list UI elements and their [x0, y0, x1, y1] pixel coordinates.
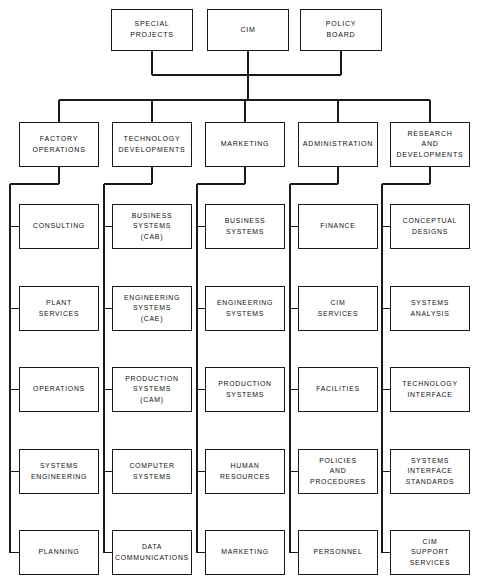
unit-box-systems-engineering[interactable]: SYSTEMS ENGINEERING — [19, 449, 99, 494]
node-label: TECHNOLOGY DEVELOPMENTS — [117, 134, 188, 155]
unit-box-finance[interactable]: FINANCE — [298, 204, 378, 249]
unit-box-plant-services[interactable]: PLANT SERVICES — [19, 286, 99, 331]
node-label: POLICIES AND PROCEDURES — [308, 456, 368, 487]
unit-box-cim-support-services[interactable]: CIM SUPPORT SERVICES — [390, 530, 470, 575]
node-label: BUSINESS SYSTEMS (CAB) — [130, 211, 175, 242]
node-label: SYSTEMS ANALYSIS — [409, 298, 452, 319]
node-label: FINANCE — [318, 221, 357, 231]
node-label: CIM SUPPORT SERVICES — [408, 537, 452, 568]
unit-box-systems-analysis[interactable]: SYSTEMS ANALYSIS — [390, 286, 470, 331]
node-label: ADMINISTRATION — [301, 139, 375, 150]
division-box-marketing-division[interactable]: MARKETING — [205, 122, 285, 167]
division-box-research-and-developments[interactable]: RESEARCH AND DEVELOPMENTS — [390, 122, 470, 167]
node-label: ENGINEERING SYSTEMS (CAE) — [122, 293, 182, 324]
unit-box-cim-services[interactable]: CIM SERVICES — [298, 286, 378, 331]
node-label: PLANNING — [37, 547, 82, 557]
unit-box-engineering-systems-cae[interactable]: ENGINEERING SYSTEMS (CAE) — [112, 286, 192, 331]
exec-box-cim[interactable]: CIM — [207, 9, 289, 51]
unit-box-business-systems[interactable]: BUSINESS SYSTEMS — [205, 204, 285, 249]
node-label: PRODUCTION SYSTEMS (CAM) — [123, 374, 181, 405]
node-label: POLICY BOARD — [324, 19, 358, 40]
node-label: PERSONNEL — [312, 547, 365, 557]
node-label: TECHNOLOGY INTERFACE — [400, 379, 459, 400]
node-label: MARKETING — [219, 139, 272, 150]
org-chart-canvas: SPECIAL PROJECTSCIMPOLICY BOARDFACTORY O… — [0, 0, 480, 581]
unit-box-conceptual-designs[interactable]: CONCEPTUAL DESIGNS — [390, 204, 470, 249]
unit-box-operations[interactable]: OPERATIONS — [19, 367, 99, 412]
node-label: SPECIAL PROJECTS — [128, 19, 176, 40]
unit-box-data-communications[interactable]: DATA COMMUNICATIONS — [112, 530, 192, 575]
node-label: DATA COMMUNICATIONS — [113, 542, 191, 563]
node-label: CIM — [238, 25, 257, 36]
unit-box-computer-systems[interactable]: COMPUTER SYSTEMS — [112, 449, 192, 494]
unit-box-systems-interface-standards[interactable]: SYSTEMS INTERFACE STANDARDS — [390, 449, 470, 494]
unit-box-policies-and-procedures[interactable]: POLICIES AND PROCEDURES — [298, 449, 378, 494]
node-label: FACTORY OPERATIONS — [30, 134, 87, 155]
unit-box-technology-interface[interactable]: TECHNOLOGY INTERFACE — [390, 367, 470, 412]
node-label: OPERATIONS — [31, 384, 87, 394]
node-label: SYSTEMS INTERFACE STANDARDS — [404, 456, 456, 487]
unit-box-marketing[interactable]: MARKETING — [205, 530, 285, 575]
node-label: SYSTEMS ENGINEERING — [29, 461, 89, 482]
unit-box-personnel[interactable]: PERSONNEL — [298, 530, 378, 575]
node-label: MARKETING — [219, 547, 270, 557]
node-label: CONCEPTUAL DESIGNS — [401, 216, 459, 237]
exec-box-policy-board[interactable]: POLICY BOARD — [300, 9, 382, 51]
node-label: CONSULTING — [31, 221, 87, 231]
unit-box-facilities[interactable]: FACILITIES — [298, 367, 378, 412]
unit-box-planning[interactable]: PLANNING — [19, 530, 99, 575]
node-label: ENGINEERING SYSTEMS — [215, 298, 275, 319]
unit-box-engineering-systems[interactable]: ENGINEERING SYSTEMS — [205, 286, 285, 331]
division-box-administration[interactable]: ADMINISTRATION — [298, 122, 378, 167]
node-label: COMPUTER SYSTEMS — [127, 461, 176, 482]
exec-box-special-projects[interactable]: SPECIAL PROJECTS — [111, 9, 193, 51]
unit-box-business-systems-cab[interactable]: BUSINESS SYSTEMS (CAB) — [112, 204, 192, 249]
node-label: PLANT SERVICES — [37, 298, 81, 319]
node-label: BUSINESS SYSTEMS — [223, 216, 268, 237]
unit-box-consulting[interactable]: CONSULTING — [19, 204, 99, 249]
node-label: PRODUCTION SYSTEMS — [216, 379, 274, 400]
unit-box-production-systems-cam[interactable]: PRODUCTION SYSTEMS (CAM) — [112, 367, 192, 412]
node-label: FACILITIES — [314, 384, 362, 394]
unit-box-human-resources[interactable]: HUMAN RESOURCES — [205, 449, 285, 494]
unit-box-production-systems[interactable]: PRODUCTION SYSTEMS — [205, 367, 285, 412]
node-label: RESEARCH AND DEVELOPMENTS — [395, 129, 466, 161]
node-label: CIM SERVICES — [316, 298, 360, 319]
node-label: HUMAN RESOURCES — [218, 461, 272, 482]
division-box-technology-developments[interactable]: TECHNOLOGY DEVELOPMENTS — [112, 122, 192, 167]
division-box-factory-operations[interactable]: FACTORY OPERATIONS — [19, 122, 99, 167]
